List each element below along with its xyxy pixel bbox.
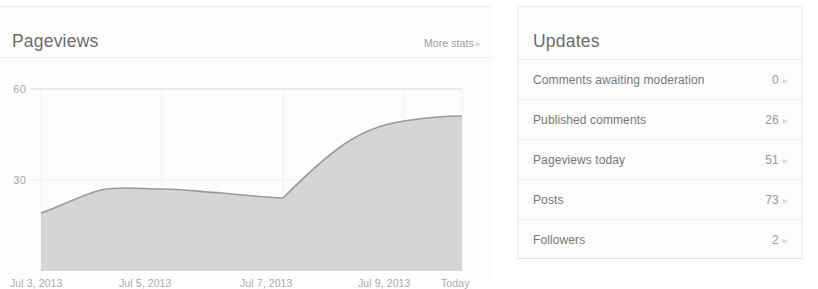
updates-title: Updates bbox=[533, 33, 600, 51]
y-axis-tick-30: 30 bbox=[2, 175, 26, 186]
list-item-label: Comments awaiting moderation bbox=[533, 74, 705, 86]
y-axis-tick-60: 60 bbox=[2, 84, 26, 95]
chevron-right-icon: » bbox=[779, 235, 787, 246]
list-item-label: Published comments bbox=[533, 114, 646, 126]
list-item-value: 51» bbox=[765, 154, 787, 166]
value-text: 26 bbox=[765, 113, 778, 127]
list-item-followers[interactable]: Followers 2» bbox=[518, 219, 802, 259]
list-item-label: Posts bbox=[533, 194, 564, 206]
x-axis-tick-4: Jul 9, 2013 bbox=[358, 278, 410, 289]
list-item-value: 2» bbox=[772, 234, 787, 246]
chevron-right-icon: » bbox=[779, 115, 787, 126]
list-item-label: Followers bbox=[533, 234, 585, 246]
value-text: 73 bbox=[765, 193, 778, 207]
more-stats-label: More stats bbox=[424, 37, 474, 49]
page-title: Pageviews bbox=[12, 33, 98, 51]
x-axis-tick-3: Jul 7, 2013 bbox=[240, 278, 292, 289]
updates-panel: Updates Comments awaiting moderation 0» … bbox=[517, 6, 803, 259]
updates-list: Comments awaiting moderation 0» Publishe… bbox=[518, 59, 802, 259]
list-item-value: 0» bbox=[772, 74, 787, 86]
pageviews-chart[interactable]: 60 30 Jul 3, 2013 Jul 5, 2013 Jul 7, 201… bbox=[0, 58, 492, 281]
chevron-right-icon: » bbox=[779, 155, 787, 166]
list-item-published-comments[interactable]: Published comments 26» bbox=[518, 99, 802, 139]
pageviews-area-chart-svg bbox=[0, 58, 492, 281]
list-item-pageviews-today[interactable]: Pageviews today 51» bbox=[518, 139, 802, 179]
value-text: 0 bbox=[772, 73, 779, 87]
pageviews-header: Pageviews More stats» bbox=[0, 7, 492, 58]
list-item-value: 26» bbox=[765, 114, 787, 126]
chevron-right-icon: » bbox=[779, 195, 787, 206]
chart-area-fill bbox=[41, 116, 462, 271]
list-item-posts[interactable]: Posts 73» bbox=[518, 179, 802, 219]
list-item-comments-awaiting-moderation[interactable]: Comments awaiting moderation 0» bbox=[518, 59, 802, 99]
value-text: 2 bbox=[772, 233, 779, 247]
x-axis-tick-1: Jul 3, 2013 bbox=[10, 278, 62, 289]
list-item-label: Pageviews today bbox=[533, 154, 625, 166]
pageviews-panel: Pageviews More stats» 60 30 bbox=[0, 6, 492, 280]
list-item-value: 73» bbox=[765, 194, 787, 206]
x-axis-tick-5: Today bbox=[441, 278, 470, 289]
value-text: 51 bbox=[765, 153, 778, 167]
x-axis-tick-2: Jul 5, 2013 bbox=[119, 278, 171, 289]
chevron-right-icon: » bbox=[474, 39, 480, 49]
chevron-right-icon: » bbox=[779, 75, 787, 86]
more-stats-link[interactable]: More stats» bbox=[424, 38, 480, 49]
